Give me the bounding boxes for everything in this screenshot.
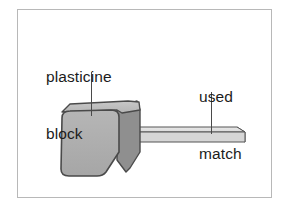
diagram-screenshot: plasticine block used match [0, 0, 289, 208]
plasticine-block-label: plasticine block [46, 29, 112, 181]
plasticine-block-label-line1: plasticine [46, 67, 112, 86]
used-match-label-line1: used [199, 87, 242, 106]
used-match-label: used match [199, 49, 242, 201]
plasticine-block-label-line2: block [46, 124, 112, 143]
used-match-label-line2: match [199, 144, 242, 163]
